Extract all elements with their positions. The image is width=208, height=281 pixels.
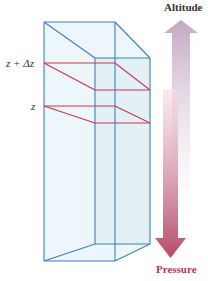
altitude-label: Altitude (164, 1, 203, 13)
pressure-label: Pressure (156, 263, 197, 275)
lower-level-label: z (31, 100, 35, 112)
upper-level-label: z + Δz (6, 57, 34, 69)
air-column-box (44, 22, 150, 261)
air-column-diagram (0, 0, 208, 281)
